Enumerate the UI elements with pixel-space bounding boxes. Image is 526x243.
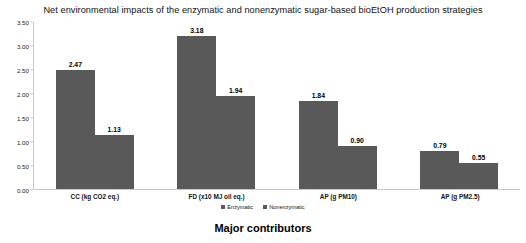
- x-axis-title: Major contributors: [0, 222, 526, 234]
- bar-value-label: 0.90: [351, 137, 364, 144]
- bar[interactable]: [338, 146, 377, 189]
- y-axis-tick-mark: [30, 118, 33, 119]
- bar-group: 0.790.55: [399, 22, 521, 189]
- legend-item[interactable]: Enzymatic: [221, 204, 253, 210]
- bar[interactable]: [177, 36, 216, 189]
- bar-slot: 1.94: [216, 22, 255, 189]
- bar-slot: 2.47: [56, 22, 95, 189]
- category-label: AP (g PM10): [278, 193, 400, 200]
- bar-group: 3.181.94: [156, 22, 278, 189]
- y-axis-tick-label: 3.00: [17, 43, 29, 50]
- bar-value-label: 0.79: [433, 142, 446, 149]
- bar-chart: Net environmental impacts of the enzymat…: [0, 0, 526, 243]
- legend-swatch-icon: [263, 205, 267, 209]
- bar-slot: 0.79: [420, 22, 459, 189]
- chart-title: Net environmental impacts of the enzymat…: [0, 5, 526, 15]
- bar-group: 1.840.90: [277, 22, 399, 189]
- legend-swatch-icon: [221, 205, 225, 209]
- legend-label: Nonenzymatic: [269, 204, 304, 210]
- bar-groups: 2.471.133.181.941.840.900.790.55: [34, 22, 520, 189]
- bar-slot: 1.13: [95, 22, 134, 189]
- legend-label: Enzymatic: [227, 204, 253, 210]
- category-label: CC (kg CO2 eq.): [34, 193, 156, 200]
- bar[interactable]: [459, 163, 498, 189]
- y-axis-tick-mark: [30, 70, 33, 71]
- bar[interactable]: [420, 151, 459, 189]
- bar-slot: 3.18: [177, 22, 216, 189]
- bar-value-label: 1.84: [312, 92, 325, 99]
- y-axis-tick-mark: [30, 46, 33, 47]
- bar-value-label: 3.18: [190, 27, 203, 34]
- bar-slot: 1.84: [299, 22, 338, 189]
- y-axis-tick-mark: [30, 190, 33, 191]
- y-axis-tick-label: 0.00: [17, 187, 29, 194]
- y-axis-tick-mark: [30, 22, 33, 23]
- category-label: AP (g PM2.5): [399, 193, 521, 200]
- bar-value-label: 0.55: [472, 154, 485, 161]
- bar[interactable]: [299, 101, 338, 189]
- legend-item[interactable]: Nonenzymatic: [263, 204, 304, 210]
- x-axis-line: [33, 189, 520, 190]
- bar-slot: 0.90: [338, 22, 377, 189]
- y-axis-tick-label: 1.00: [17, 139, 29, 146]
- y-axis-tick-label: 2.50: [17, 67, 29, 74]
- bar-group: 2.471.13: [34, 22, 156, 189]
- category-axis-labels: CC (kg CO2 eq.)FD (x10 MJ oil eq.)AP (g …: [34, 193, 521, 200]
- chart-legend: EnzymaticNonenzymatic: [0, 204, 526, 210]
- bar-value-label: 1.13: [108, 126, 121, 133]
- bar[interactable]: [216, 96, 255, 189]
- y-axis-tick-label: 2.00: [17, 91, 29, 98]
- bar-value-label: 1.94: [229, 87, 242, 94]
- y-axis-tick-label: 3.50: [17, 19, 29, 26]
- y-axis-tick-label: 1.50: [17, 115, 29, 122]
- y-axis-tick-mark: [30, 94, 33, 95]
- y-axis-tick-mark: [30, 142, 33, 143]
- y-axis-tick-mark: [30, 166, 33, 167]
- bar[interactable]: [56, 70, 95, 189]
- y-axis-tick-label: 0.50: [17, 163, 29, 170]
- category-label: FD (x10 MJ oil eq.): [156, 193, 278, 200]
- bar-value-label: 2.47: [69, 61, 82, 68]
- bar-slot: 0.55: [459, 22, 498, 189]
- plot-area: 2.471.133.181.941.840.900.790.55 0.000.5…: [33, 22, 520, 190]
- bar[interactable]: [95, 135, 134, 189]
